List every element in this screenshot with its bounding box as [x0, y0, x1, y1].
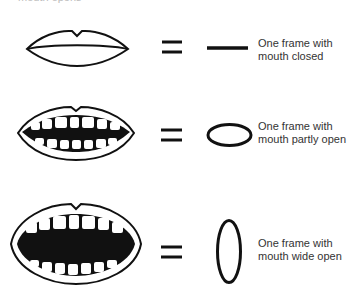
equals-sign-icon: [161, 247, 182, 257]
caption-line: mouth wide open: [258, 250, 342, 263]
partly-open-oval-icon: [208, 125, 251, 146]
caption-line: mouth closed: [258, 50, 333, 63]
equals-sign-icon: [161, 130, 182, 140]
wide-open-mouth-icon: [11, 204, 141, 284]
wide-open-oval-icon: [218, 221, 241, 283]
caption-partly-open: One frame with mouth partly open: [258, 120, 346, 145]
caption-line: mouth partly open: [258, 133, 346, 146]
caption-line: One frame with: [258, 37, 333, 50]
partly-open-mouth-icon: [18, 107, 134, 160]
caption-wide-open: One frame with mouth wide open: [258, 237, 342, 262]
caption-line: One frame with: [258, 237, 342, 250]
caption-closed: One frame with mouth closed: [258, 37, 333, 62]
equals-sign-icon: [162, 42, 182, 52]
closed-lips-icon: [27, 31, 128, 66]
caption-line: One frame with: [258, 120, 346, 133]
